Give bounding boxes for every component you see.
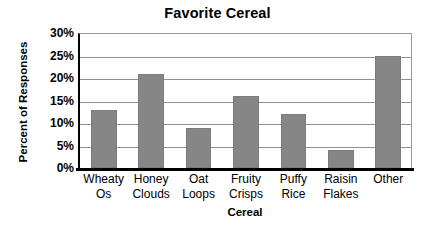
x-axis-line (76, 168, 414, 171)
bar[interactable] (375, 56, 401, 169)
bar-slot (365, 33, 412, 168)
x-axis-title: Cereal (78, 206, 412, 218)
y-tick-label: 10% (4, 116, 74, 130)
y-tick-label: 0% (4, 161, 74, 175)
y-tick-label: 20% (4, 71, 74, 85)
bar-slot (127, 33, 174, 168)
bar[interactable] (186, 128, 212, 169)
bar[interactable] (138, 74, 164, 169)
bar-series (80, 33, 412, 168)
y-tick-label: 30% (4, 26, 74, 40)
bar-slot (80, 33, 127, 168)
bar-slot (317, 33, 364, 168)
y-tick-label: 25% (4, 49, 74, 63)
y-tick-label: 5% (4, 139, 74, 153)
bar-slot (175, 33, 222, 168)
bar[interactable] (233, 96, 259, 168)
y-tick-label: 15% (4, 94, 74, 108)
x-tick-label: Other (365, 172, 412, 202)
x-axis-tick-labels: Wheaty OsHoney CloudsOat LoopsFruity Cri… (80, 172, 412, 202)
chart-figure: Favorite Cereal Percent of Responses 30%… (0, 0, 435, 235)
bar-slot (270, 33, 317, 168)
bar[interactable] (91, 110, 117, 169)
x-tick-label: Wheaty Os (80, 172, 127, 202)
bar[interactable] (328, 150, 354, 168)
bar[interactable] (281, 114, 307, 168)
bar-slot (222, 33, 269, 168)
x-tick-label: Oat Loops (175, 172, 222, 202)
x-tick-label: Honey Clouds (127, 172, 174, 202)
y-axis-tick-labels: 30%25%20%15%10%5%0% (0, 0, 74, 235)
x-tick-label: Raisin Flakes (317, 172, 364, 202)
x-tick-label: Puffy Rice (270, 172, 317, 202)
x-tick-label: Fruity Crisps (222, 172, 269, 202)
